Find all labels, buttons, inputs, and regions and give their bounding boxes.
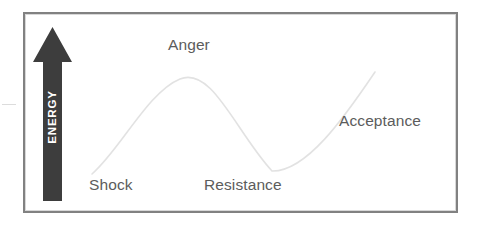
stage-label-shock: Shock [89,176,133,194]
stage-label-resistance: Resistance [204,176,282,194]
energy-arrow-label: ENERGY [46,90,58,143]
change-curve [92,72,375,174]
stage-label-acceptance: Acceptance [339,112,421,130]
diagram-canvas: ENERGY Anger Shock Resistance Acceptance [0,0,481,229]
stage-label-anger: Anger [168,36,210,54]
